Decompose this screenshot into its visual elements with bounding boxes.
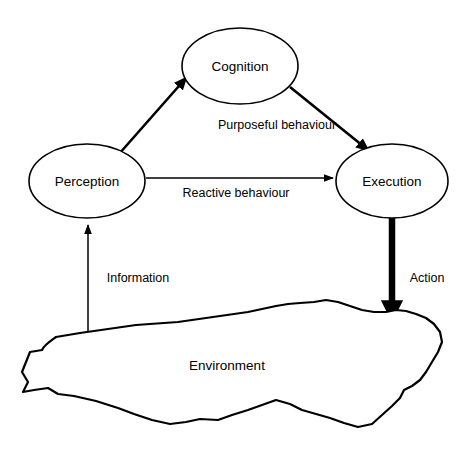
diagram-canvas: Environment Cognition Perception Executi… [0, 0, 474, 451]
edge-label-information: Information [107, 271, 170, 285]
edge-line-perception-cognition [119, 78, 186, 154]
environment-label: Environment [189, 358, 265, 373]
diagram-svg: Environment Cognition Perception Executi… [0, 0, 474, 451]
execution-label: Execution [362, 174, 421, 189]
edge-label-action: Action [410, 271, 445, 285]
node-perception[interactable]: Perception [29, 144, 145, 218]
node-environment[interactable]: Environment [22, 300, 442, 427]
edge-label-purposeful-behaviour: Purposeful behaviour [218, 118, 336, 132]
perception-label: Perception [55, 174, 120, 189]
edge-label-reactive-behaviour: Reactive behaviour [182, 186, 289, 200]
node-cognition[interactable]: Cognition [182, 28, 298, 104]
node-execution[interactable]: Execution [336, 144, 448, 218]
edge-perception-to-cognition [119, 78, 186, 154]
cognition-label: Cognition [211, 59, 268, 74]
